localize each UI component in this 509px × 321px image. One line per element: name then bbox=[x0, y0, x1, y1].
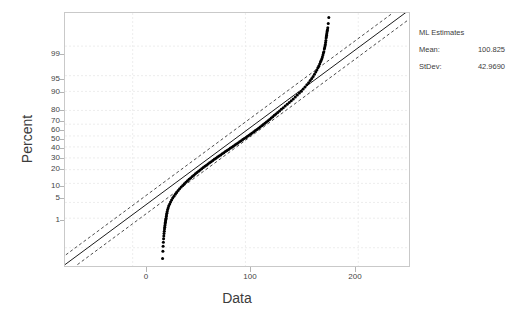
plot-canvas bbox=[65, 13, 409, 266]
plot-area bbox=[64, 12, 410, 267]
grid-lines bbox=[65, 13, 409, 266]
ml-estimates-row-stdev: StDev: 42.9690 bbox=[419, 62, 505, 71]
data-point bbox=[161, 250, 164, 253]
ml-estimates-row-mean: Mean: 100.825 bbox=[419, 45, 505, 54]
x-tick-label-0: 0 bbox=[144, 272, 148, 281]
data-point bbox=[162, 241, 165, 244]
data-point bbox=[322, 50, 325, 53]
data-point bbox=[162, 245, 165, 248]
y-axis-title: Percent bbox=[19, 79, 35, 199]
probability-plot-figure: 99 95 90 80 70 60 50 40 30 20 10 5 1 bbox=[0, 0, 509, 321]
stdev-label: StDev: bbox=[419, 62, 442, 71]
data-point bbox=[162, 237, 165, 240]
fitted-normal-line bbox=[65, 13, 409, 265]
stdev-value: 42.9690 bbox=[478, 62, 505, 71]
data-point bbox=[161, 257, 164, 260]
x-axis-title: Data bbox=[177, 290, 297, 306]
ml-estimates-title: ML Estimates bbox=[419, 28, 505, 37]
x-tick-label-200: 200 bbox=[348, 272, 361, 281]
data-point bbox=[327, 16, 330, 19]
ml-estimates-legend: ML Estimates Mean: 100.825 StDev: 42.969… bbox=[419, 28, 505, 79]
mean-value: 100.825 bbox=[478, 45, 505, 54]
mean-label: Mean: bbox=[419, 45, 440, 54]
data-point-series bbox=[161, 16, 330, 260]
data-point bbox=[327, 22, 330, 25]
confidence-band-upper-ci bbox=[65, 13, 397, 265]
data-point bbox=[326, 26, 329, 29]
x-tick-label-100: 100 bbox=[243, 272, 256, 281]
x-axis-tick-labels: 0 100 200 bbox=[0, 272, 509, 286]
